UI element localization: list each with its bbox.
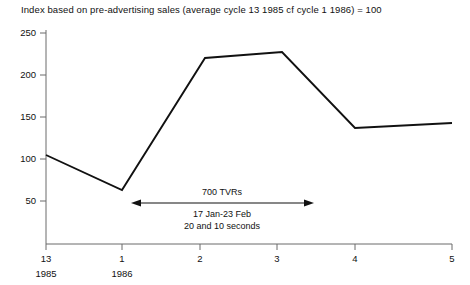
campaign-duration-label: 20 and 10 seconds [122, 221, 322, 231]
y-tick-label-150: 150 [10, 111, 36, 122]
y-tick-label-100: 100 [10, 153, 36, 164]
x-tick-label-2: 2 [180, 253, 220, 264]
chart-plot-area [0, 0, 470, 285]
y-tick-label-250: 250 [10, 27, 36, 38]
x-axis-ticks [46, 244, 452, 250]
campaign-arrow-icon [131, 200, 314, 207]
y-tick-label-50: 50 [10, 195, 36, 206]
x-tick-label-5: 5 [432, 253, 470, 264]
data-series-line [46, 52, 452, 190]
x-tick-label-3: 3 [257, 253, 297, 264]
x-tick-label-1: 1 [102, 253, 142, 264]
y-axis-ticks [40, 33, 46, 201]
x-sublabel-1985: 1985 [24, 268, 68, 279]
y-tick-label-200: 200 [10, 69, 36, 80]
x-sublabel-1986: 1986 [100, 268, 144, 279]
x-tick-label-13: 13 [26, 253, 66, 264]
campaign-dates-label: 17 Jan-23 Feb [122, 209, 322, 219]
x-tick-label-4: 4 [335, 253, 375, 264]
campaign-tvrs-label: 700 TVRs [122, 187, 322, 197]
chart-container: Index based on pre-advertising sales (av… [0, 0, 470, 285]
